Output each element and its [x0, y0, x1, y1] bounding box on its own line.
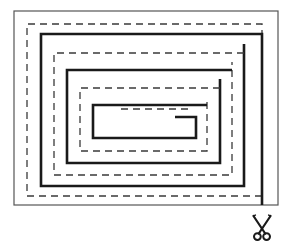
diagram-canvas: Rectangular spiral cutting pattern A she…	[0, 0, 295, 250]
canvas-background	[0, 0, 295, 250]
spiral-cut-diagram	[0, 0, 295, 250]
